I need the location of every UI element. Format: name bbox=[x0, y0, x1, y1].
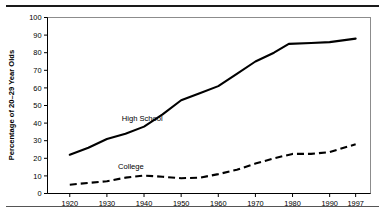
y-tick-label: 20 bbox=[33, 154, 41, 163]
series-label-college: College bbox=[118, 162, 144, 171]
y-tick-label: 100 bbox=[29, 13, 41, 22]
plot-frame-group bbox=[48, 18, 371, 194]
series-group bbox=[70, 39, 356, 185]
y-tick-label: 80 bbox=[33, 48, 41, 57]
y-tick-label: 50 bbox=[33, 101, 41, 110]
x-tick-label: 1920 bbox=[62, 199, 78, 208]
series-line-high-school bbox=[70, 39, 356, 155]
x-tick-label: 1997 bbox=[347, 199, 363, 208]
y-tick-label: 90 bbox=[33, 31, 41, 40]
x-tick-label: 1950 bbox=[173, 199, 189, 208]
series-label-group: High SchoolCollege bbox=[118, 114, 163, 171]
x-axis-ticks: 192019301940195019601970198019901997 bbox=[62, 194, 364, 209]
x-tick-label: 1930 bbox=[99, 199, 115, 208]
y-tick-label: 40 bbox=[33, 119, 41, 128]
y-tick-label: 30 bbox=[33, 136, 41, 145]
series-label-high-school: High School bbox=[122, 114, 163, 123]
plot-area-frame bbox=[48, 18, 371, 194]
y-axis-title: Percentage of 20–29 Year Olds bbox=[7, 50, 16, 160]
y-tick-label: 70 bbox=[33, 66, 41, 75]
y-tick-label: 0 bbox=[37, 189, 41, 198]
line-chart: 0102030405060708090100 19201930194019501… bbox=[0, 0, 385, 214]
y-tick-label: 10 bbox=[33, 172, 41, 181]
y-tick-label: 60 bbox=[33, 84, 41, 93]
x-tick-label: 1960 bbox=[210, 199, 226, 208]
x-tick-label: 1940 bbox=[136, 199, 152, 208]
figure-container: 0102030405060708090100 19201930194019501… bbox=[0, 0, 385, 214]
x-tick-label: 1990 bbox=[321, 199, 337, 208]
y-axis-ticks: 0102030405060708090100 bbox=[29, 13, 47, 198]
x-tick-label: 1970 bbox=[247, 199, 263, 208]
x-tick-label: 1980 bbox=[284, 199, 300, 208]
series-line-college bbox=[70, 144, 356, 184]
